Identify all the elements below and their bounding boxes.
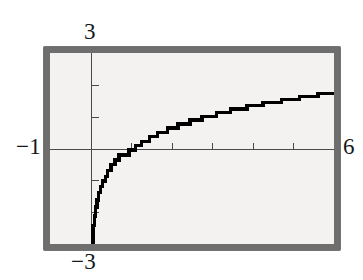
- plot-screen[interactable]: [50, 53, 334, 244]
- x-axis-tick-marks: [132, 143, 294, 150]
- y-max-label: 3: [84, 20, 96, 43]
- curve-path: [93, 92, 332, 238]
- y-min-label: −3: [71, 250, 96, 273]
- curve-trace: [93, 92, 332, 244]
- plot-canvas: [50, 53, 334, 244]
- calculator-screenshot: 3 −3 −1 6: [0, 0, 363, 280]
- x-min-label: −1: [16, 135, 41, 158]
- x-max-label: 6: [343, 135, 355, 158]
- calculator-bezel: [43, 46, 341, 251]
